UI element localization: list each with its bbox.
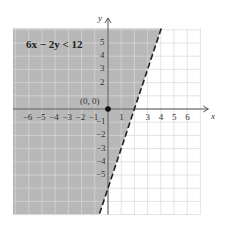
x-tick-label: 6 <box>185 113 190 122</box>
inequality-label: 6x − 2y < 12 <box>26 38 83 50</box>
y-tick-label: 4 <box>100 51 105 60</box>
origin-point <box>105 106 111 112</box>
origin-label: (0, 0) <box>80 97 100 106</box>
x-tick-label: −5 <box>36 113 46 122</box>
y-tick-label: 3 <box>100 64 105 73</box>
x-tick-label: −2 <box>76 113 86 122</box>
y-tick-label: 5 <box>100 38 105 47</box>
x-tick-label: 5 <box>172 113 177 122</box>
plot-area <box>0 0 229 227</box>
x-tick-label: −6 <box>23 113 33 122</box>
inequality-graph: 6x − 2y < 12 (0, 0) x y −6−5−4−3−2−11345… <box>0 0 229 227</box>
y-axis-label: y <box>98 14 102 23</box>
y-tick-label: −2 <box>96 130 106 139</box>
x-tick-label: −4 <box>49 113 59 122</box>
x-tick-label: −3 <box>62 113 72 122</box>
x-tick-label: 1 <box>119 113 124 122</box>
x-tick-label: 4 <box>159 113 164 122</box>
y-tick-label: −5 <box>96 170 106 179</box>
y-tick-label: −4 <box>96 157 106 166</box>
y-tick-label: −1 <box>96 117 106 126</box>
y-tick-label: 2 <box>100 78 105 87</box>
y-tick-label: −3 <box>96 144 106 153</box>
x-tick-label: 3 <box>146 113 151 122</box>
x-axis-label: x <box>211 112 215 121</box>
